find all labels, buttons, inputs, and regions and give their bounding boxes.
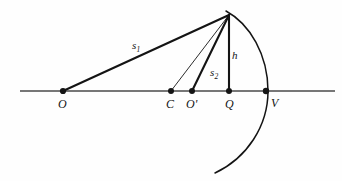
point-label-V: V	[271, 97, 278, 109]
optics-ray-diagram: O C O' Q V s1 s2 h	[0, 0, 342, 181]
segment-label-s1: s1	[132, 40, 140, 51]
point-label-O-prime: O'	[186, 98, 197, 110]
point-marker-Op	[189, 88, 195, 94]
spherical-surface-arc	[215, 11, 268, 173]
segment-label-h: h	[232, 50, 238, 61]
radius-line-c-to-apex	[171, 15, 229, 91]
point-marker-C	[168, 88, 174, 94]
segment-label-s2-base: s	[210, 66, 214, 78]
point-marker-O	[60, 88, 66, 94]
point-marker-V	[263, 88, 269, 94]
point-label-C: C	[166, 98, 174, 110]
segment-label-s1-sub: 1	[137, 45, 141, 54]
segment-label-s2-sub: 2	[215, 72, 219, 81]
segment-label-s1-base: s	[132, 39, 136, 51]
ray-s1-line	[63, 15, 229, 91]
point-label-O: O	[58, 98, 67, 110]
segment-label-s2: s2	[210, 67, 218, 78]
diagram-canvas	[0, 0, 342, 181]
point-label-Q: Q	[225, 98, 234, 110]
point-marker-Q	[226, 88, 232, 94]
ray-s2-line	[192, 15, 229, 91]
